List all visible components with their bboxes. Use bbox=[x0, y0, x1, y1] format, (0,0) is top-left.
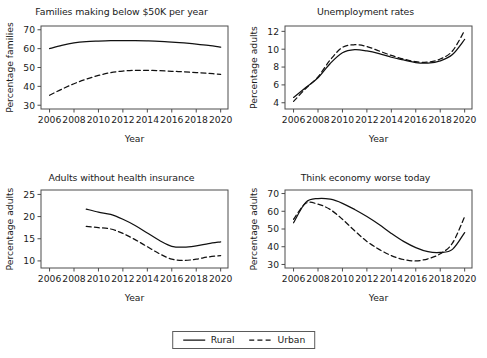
x-tick-label: 2010 bbox=[87, 114, 111, 125]
y-tick-label: 60 bbox=[267, 206, 279, 217]
legend-line-dashed-icon bbox=[248, 336, 272, 344]
x-tick-label: 2008 bbox=[62, 273, 86, 284]
legend-entry-urban: Urban bbox=[248, 334, 305, 345]
plot-area: 2006200820102012201420162018202030405060… bbox=[0, 6, 243, 166]
x-tick-label: 2008 bbox=[306, 273, 330, 284]
x-tick-label: 2006 bbox=[38, 273, 62, 284]
x-tick-label: 2020 bbox=[209, 273, 233, 284]
y-axis-label: Percentage adults bbox=[248, 187, 259, 270]
y-tick-label: 30 bbox=[23, 100, 35, 111]
x-tick-label: 2014 bbox=[136, 273, 160, 284]
y-tick-label: 8 bbox=[273, 61, 279, 72]
x-tick-label: 2014 bbox=[380, 114, 404, 125]
series-line-urban bbox=[294, 30, 465, 101]
x-tick-label: 2010 bbox=[331, 114, 355, 125]
series-line-rural bbox=[294, 39, 465, 97]
y-tick-label: 30 bbox=[267, 259, 279, 270]
series-line-urban bbox=[86, 226, 220, 260]
series-line-rural bbox=[50, 41, 221, 49]
legend: Rural Urban bbox=[172, 331, 316, 349]
y-axis-label: Percentage adults bbox=[248, 26, 259, 109]
y-tick-label: 50 bbox=[23, 62, 35, 73]
y-tick-label: 50 bbox=[267, 223, 279, 234]
x-tick-label: 2010 bbox=[87, 273, 111, 284]
panel-adults-without-health-insurance: Adults without health insurance 20062008… bbox=[0, 172, 243, 322]
x-tick-label: 2012 bbox=[355, 273, 378, 284]
x-tick-label: 2010 bbox=[331, 273, 355, 284]
plot-frame bbox=[41, 190, 228, 268]
y-tick-label: 6 bbox=[273, 79, 279, 90]
legend-line-solid-icon bbox=[182, 336, 206, 344]
y-tick-label: 15 bbox=[23, 233, 35, 244]
y-tick-label: 20 bbox=[23, 211, 35, 222]
x-tick-label: 2020 bbox=[453, 273, 477, 284]
panel-think-economy-worse-today: Think economy worse today 20062008201020… bbox=[244, 172, 487, 322]
x-tick-label: 2018 bbox=[429, 273, 453, 284]
x-axis-label: Year bbox=[124, 292, 145, 303]
y-tick-label: 70 bbox=[267, 188, 279, 199]
y-tick-label: 10 bbox=[23, 255, 35, 266]
y-tick-label: 70 bbox=[23, 24, 35, 35]
x-axis-label: Year bbox=[124, 133, 145, 144]
panel-unemployment-rates: Unemployment rates 200620082010201220142… bbox=[244, 6, 487, 166]
plot-frame bbox=[41, 26, 228, 109]
series-line-rural bbox=[294, 198, 465, 252]
y-tick-label: 12 bbox=[267, 26, 279, 37]
x-tick-label: 2006 bbox=[282, 273, 306, 284]
x-tick-label: 2016 bbox=[404, 114, 428, 125]
legend-label-urban: Urban bbox=[277, 334, 305, 345]
x-tick-label: 2012 bbox=[111, 114, 134, 125]
multi-panel-figure: Families making below $50K per year 2006… bbox=[0, 0, 487, 358]
plot-frame bbox=[285, 190, 472, 268]
y-tick-label: 40 bbox=[267, 241, 279, 252]
x-tick-label: 2012 bbox=[111, 273, 134, 284]
panel-grid: Families making below $50K per year 2006… bbox=[0, 0, 487, 318]
x-tick-label: 2012 bbox=[355, 114, 378, 125]
x-tick-label: 2016 bbox=[404, 273, 428, 284]
x-tick-label: 2006 bbox=[282, 114, 306, 125]
plot-area: 2006200820102012201420162018202010152025… bbox=[0, 172, 243, 322]
x-tick-label: 2006 bbox=[38, 114, 62, 125]
panel-families-below-50k: Families making below $50K per year 2006… bbox=[0, 6, 243, 166]
x-tick-label: 2014 bbox=[136, 114, 160, 125]
series-line-urban bbox=[50, 70, 221, 95]
x-tick-label: 2020 bbox=[209, 114, 233, 125]
y-axis-label: Percentage adults bbox=[4, 187, 15, 270]
x-tick-label: 2016 bbox=[160, 114, 184, 125]
y-tick-label: 4 bbox=[273, 97, 279, 108]
plot-area: 200620082010201220142016201820204681012Y… bbox=[244, 6, 487, 166]
plot-area: 2006200820102012201420162018202030405060… bbox=[244, 172, 487, 322]
legend-label-rural: Rural bbox=[211, 334, 235, 345]
x-tick-label: 2018 bbox=[185, 273, 209, 284]
x-tick-label: 2020 bbox=[453, 114, 477, 125]
x-tick-label: 2014 bbox=[380, 273, 404, 284]
y-tick-label: 40 bbox=[23, 81, 35, 92]
plot-frame bbox=[285, 26, 472, 109]
x-axis-label: Year bbox=[368, 133, 389, 144]
x-tick-label: 2008 bbox=[306, 114, 330, 125]
y-tick-label: 60 bbox=[23, 43, 35, 54]
x-tick-label: 2008 bbox=[62, 114, 86, 125]
x-axis-label: Year bbox=[368, 292, 389, 303]
y-axis-label: Percentage families bbox=[4, 22, 15, 113]
legend-entry-rural: Rural bbox=[182, 334, 235, 345]
x-tick-label: 2016 bbox=[160, 273, 184, 284]
x-tick-label: 2018 bbox=[429, 114, 453, 125]
y-tick-label: 25 bbox=[23, 189, 35, 200]
x-tick-label: 2018 bbox=[185, 114, 209, 125]
y-tick-label: 10 bbox=[267, 44, 279, 55]
